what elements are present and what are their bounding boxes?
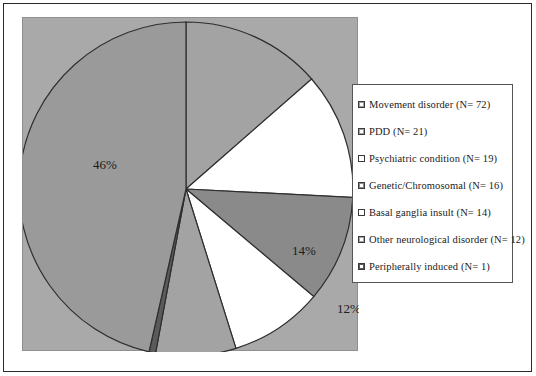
legend-swatch-icon bbox=[358, 101, 365, 108]
legend-item-label: Other neurological disorder (N= 12) bbox=[369, 234, 525, 245]
legend-item[interactable]: Basal ganglia insult (N= 14) bbox=[358, 199, 512, 226]
legend-swatch-icon bbox=[358, 263, 365, 270]
legend-swatch-icon bbox=[358, 155, 365, 162]
legend-item[interactable]: PDD (N= 21) bbox=[358, 118, 512, 145]
legend-item-label: Basal ganglia insult (N= 14) bbox=[369, 207, 491, 218]
legend-swatch-icon bbox=[358, 128, 365, 135]
legend-item[interactable]: Movement disorder (N= 72) bbox=[358, 91, 512, 118]
legend-item[interactable]: Peripherally induced (N= 1) bbox=[358, 253, 512, 280]
pie-slice-label: 46% bbox=[93, 157, 117, 172]
pie-chart: 14%12%10%9%8%1%46% bbox=[23, 18, 359, 352]
pie-plot-area: 14%12%10%9%8%1%46% bbox=[22, 17, 358, 351]
pie-slice-label: 14% bbox=[292, 243, 316, 258]
legend-item-label: PDD (N= 21) bbox=[369, 126, 427, 137]
legend-item-label: Movement disorder (N= 72) bbox=[369, 99, 490, 110]
legend-item-label: Peripherally induced (N= 1) bbox=[369, 261, 490, 272]
legend-item-label: Genetic/Chromosomal (N= 16) bbox=[369, 180, 503, 191]
legend-box: Movement disorder (N= 72) PDD (N= 21) Ps… bbox=[352, 84, 513, 283]
legend-item[interactable]: Other neurological disorder (N= 12) bbox=[358, 226, 512, 253]
legend-item-label: Psychiatric condition (N= 19) bbox=[369, 153, 497, 164]
pie-slice-label: 12% bbox=[337, 301, 359, 316]
legend-swatch-icon bbox=[358, 209, 365, 216]
legend-item[interactable]: Psychiatric condition (N= 19) bbox=[358, 145, 512, 172]
figure-container: 14%12%10%9%8%1%46% Movement disorder (N=… bbox=[0, 0, 536, 376]
legend-item[interactable]: Genetic/Chromosomal (N= 16) bbox=[358, 172, 512, 199]
legend-swatch-icon bbox=[358, 182, 365, 189]
legend-swatch-icon bbox=[358, 236, 365, 243]
